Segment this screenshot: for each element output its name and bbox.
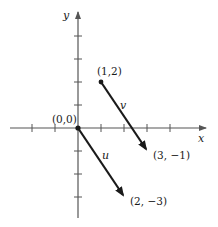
coordinate-plane: y x (0,0) (1,2) v u (3, −1) (2, −3) — [0, 0, 218, 227]
vector-v-label: v — [120, 99, 127, 112]
u-end-label: (2, −3) — [130, 195, 167, 207]
vector-v — [101, 82, 146, 149]
origin-label: (0,0) — [52, 113, 77, 125]
v-end-label: (3, −1) — [153, 149, 190, 161]
vector-u — [78, 128, 123, 195]
y-axis-label: y — [62, 9, 70, 22]
diagram-canvas: y x (0,0) (1,2) v u (3, −1) (2, −3) — [0, 0, 218, 227]
vector-u-label: u — [102, 149, 109, 162]
x-axis-label: x — [198, 132, 205, 145]
v-start-label: (1,2) — [97, 65, 122, 77]
